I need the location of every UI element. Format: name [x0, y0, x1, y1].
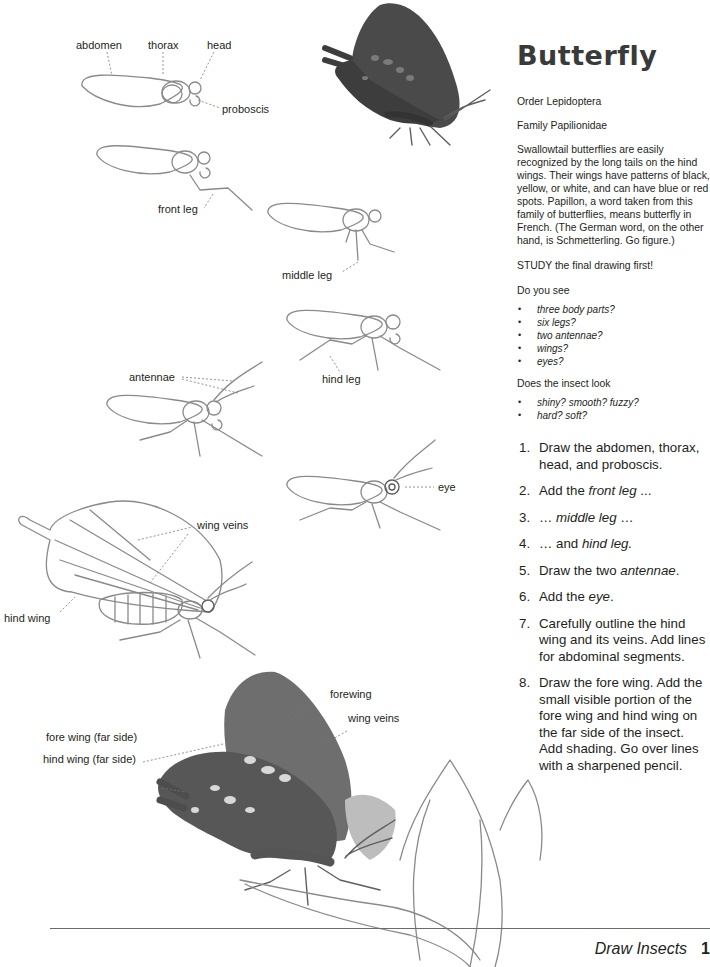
- worksheet-page: abdomen thorax head proboscis front leg …: [0, 0, 710, 967]
- family-text: Family Papilionidae: [517, 119, 710, 132]
- bullet-icon: •: [518, 316, 521, 329]
- label-thorax: thorax: [148, 39, 179, 52]
- bullet-icon: •: [518, 329, 521, 342]
- step4-hind-leg-sketch: [287, 310, 440, 372]
- step-6: 6.Add the eye.: [517, 589, 710, 606]
- label-hind-wing-far-side: hind wing (far side): [43, 753, 136, 766]
- step6-eye-sketch: [287, 440, 440, 530]
- do-you-see-heading: Do you see: [517, 284, 710, 297]
- step-8: 8.Draw the fore wing. Add the small visi…: [517, 675, 710, 774]
- top-butterfly-illustration: [325, 3, 490, 145]
- list-item: •shiny? smooth? fuzzy?: [517, 396, 710, 409]
- list-item: •hard? soft?: [517, 409, 710, 422]
- does-it-look-heading: Does the insect look: [517, 377, 710, 390]
- bullet-icon: •: [518, 303, 521, 316]
- study-note: STUDY the final drawing first!: [517, 259, 710, 272]
- footer-section-title: Draw Insects: [595, 940, 687, 957]
- label-proboscis: proboscis: [222, 103, 269, 116]
- step-1: 1.Draw the abdomen, thorax, head, and pr…: [517, 440, 710, 473]
- label-abdomen: abdomen: [76, 39, 122, 52]
- label-middle-leg: middle leg: [282, 269, 332, 282]
- list-item: •six legs?: [517, 316, 710, 329]
- label-hind-wing: hind wing: [4, 612, 50, 625]
- bullet-icon: •: [518, 355, 521, 368]
- label-eye: eye: [438, 481, 456, 494]
- step1-body-sketch: [82, 52, 220, 108]
- does-it-look-list: •shiny? smooth? fuzzy? •hard? soft?: [517, 396, 710, 422]
- label-fore-wing-far-side: fore wing (far side): [46, 731, 137, 744]
- page-footer: Draw Insects1: [595, 940, 710, 958]
- step2-front-leg-sketch: [97, 146, 252, 210]
- do-you-see-list: •three body parts? •six legs? •two anten…: [517, 303, 710, 368]
- step-2: 2.Add the front leg ...: [517, 483, 710, 500]
- list-item: •eyes?: [517, 355, 710, 368]
- step-3: 3.… middle leg …: [517, 510, 710, 527]
- bullet-icon: •: [518, 409, 521, 422]
- label-hind-leg: hind leg: [322, 373, 361, 386]
- label-wing-veins-step7: wing veins: [197, 519, 248, 532]
- text-column: Butterfly Order Lepidoptera Family Papil…: [517, 40, 710, 784]
- step-5: 5.Draw the two antennae.: [517, 563, 710, 580]
- step-list: 1.Draw the abdomen, thorax, head, and pr…: [517, 440, 710, 774]
- order-text: Order Lepidoptera: [517, 95, 710, 108]
- label-wing-veins-step8: wing veins: [348, 712, 399, 725]
- label-front-leg: front leg: [158, 203, 198, 216]
- label-forewing: forewing: [330, 688, 372, 701]
- step-4: 4.… and hind leg.: [517, 536, 710, 553]
- list-item: •three body parts?: [517, 303, 710, 316]
- label-head: head: [207, 39, 231, 52]
- step-7: 7.Carefully outline the hind wing and it…: [517, 616, 710, 666]
- step3-middle-leg-sketch: [268, 203, 394, 272]
- page-number: 1: [701, 940, 710, 957]
- bullet-icon: •: [518, 396, 521, 409]
- page-title: Butterfly: [517, 40, 710, 74]
- list-item: •two antennae?: [517, 329, 710, 342]
- description-paragraph: Swallowtail butterflies are easily recog…: [517, 143, 710, 247]
- final-butterfly-illustration: [143, 672, 542, 967]
- list-item: •wings?: [517, 342, 710, 355]
- label-antennae: antennae: [129, 371, 175, 384]
- bullet-icon: •: [518, 342, 521, 355]
- footer-divider: [50, 928, 710, 929]
